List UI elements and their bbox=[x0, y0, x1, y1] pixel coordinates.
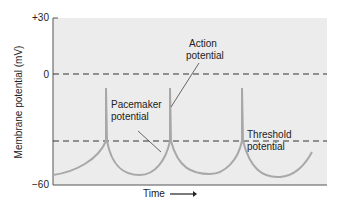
membrane-potential-chart: +30 0 −60 Membrane potential (mV) Action… bbox=[0, 0, 340, 207]
threshold-potential-label-1: Threshold bbox=[247, 129, 291, 140]
y-tick-plus30: +30 bbox=[32, 12, 49, 23]
y-tick-zero: 0 bbox=[43, 69, 49, 80]
y-tick-minus60: −60 bbox=[32, 179, 49, 190]
pacemaker-potential-label-2: potential bbox=[111, 111, 149, 122]
threshold-potential-label-2: potential bbox=[247, 141, 285, 152]
x-axis-label: Time bbox=[143, 188, 165, 199]
pacemaker-potential-label-1: Pacemaker bbox=[111, 99, 162, 110]
time-arrow-icon bbox=[193, 191, 197, 197]
y-axis-label: Membrane potential (mV) bbox=[13, 46, 24, 159]
action-potential-label-1: Action bbox=[189, 38, 217, 49]
action-potential-label-2: potential bbox=[186, 50, 224, 61]
